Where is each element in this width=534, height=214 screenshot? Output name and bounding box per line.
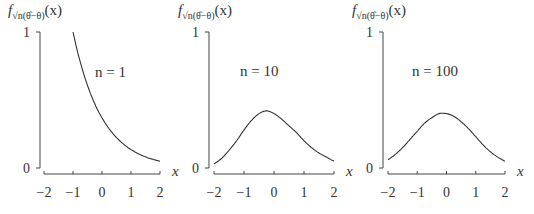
sample-size-annotation: n = 100 bbox=[412, 63, 458, 79]
x-tick-label: −1 bbox=[410, 185, 425, 200]
chart-panel-3: 10−2−1012xn = 100 bbox=[0, 0, 534, 214]
x-axis-label: x bbox=[516, 163, 524, 179]
x-tick-label: 0 bbox=[443, 185, 450, 200]
x-tick-label: 2 bbox=[502, 185, 509, 200]
x-tick-label: −2 bbox=[381, 185, 396, 200]
y-tick-label-1: 1 bbox=[366, 25, 373, 40]
x-tick-label: 1 bbox=[472, 185, 479, 200]
density-curve bbox=[388, 113, 505, 161]
y-tick-label-0: 0 bbox=[366, 161, 373, 176]
